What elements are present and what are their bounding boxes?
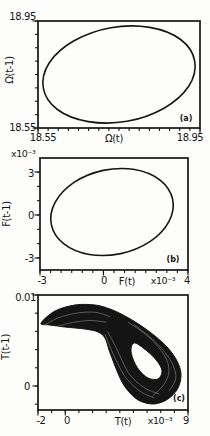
y-scale-label: x10⁻³: [11, 148, 36, 159]
chaotic-attractor-band: [41, 304, 181, 404]
y-tick-label: 3: [28, 168, 34, 179]
y-axis-title: T(t-1): [0, 334, 11, 361]
x-tick-label: 18.55: [30, 132, 57, 143]
panel-letter-a: (a): [180, 114, 193, 123]
x-tick-label: 0: [64, 415, 70, 426]
x-tick-label: 4: [184, 275, 190, 286]
panel-b: x10⁻³ 3 0 -3 F(t-1) -3 0 F(t) x10⁻³ 4 (b…: [1, 148, 190, 287]
panel-c: 0.01 0 T(t-1) -2 0 T(t) x10⁻³ 9 (c): [0, 292, 189, 427]
x-tick-label: 9: [183, 415, 189, 426]
x-axis-title: T(t): [114, 416, 132, 427]
limit-cycle-curve-b: [51, 169, 173, 256]
x-tick-label: -3: [37, 275, 46, 286]
y-tick-label: 0.01: [15, 292, 36, 303]
plot-frame-b: [40, 158, 188, 270]
x-tick-label: 0: [101, 275, 107, 286]
panel-a: 18.95 18.55 Ω(t-1) 18.55 Ω(t) 18.95 (a): [4, 11, 203, 144]
x-tick-label: -2: [36, 415, 45, 426]
x-axis-title: Ω(t): [105, 133, 124, 144]
panel-letter-b: (b): [166, 255, 179, 264]
axis-ticks-a: [33, 21, 201, 134]
x-tick-label: 18.95: [177, 132, 204, 143]
phase-loop: [43, 26, 195, 123]
scientific-figure: 18.95 18.55 Ω(t-1) 18.55 Ω(t) 18.95 (a) …: [0, 0, 210, 436]
x-axis-title: F(t): [119, 276, 136, 287]
x-scale-label: x10⁻³: [148, 415, 173, 426]
phase-loop: [51, 169, 173, 256]
y-tick-label: 0: [28, 210, 34, 221]
y-tick-label: 0: [24, 381, 30, 392]
y-tick-label: -3: [25, 253, 34, 264]
y-axis-title: Ω(t-1): [4, 56, 15, 84]
panel-letter-c: (c): [173, 394, 185, 403]
x-scale-label: x10⁻³: [151, 275, 176, 286]
y-axis-title: F(t-1): [1, 201, 12, 227]
figure-svg: 18.95 18.55 Ω(t-1) 18.55 Ω(t) 18.95 (a) …: [0, 0, 210, 436]
y-tick-label: 18.95: [9, 11, 36, 22]
limit-cycle-curve-a: [43, 26, 195, 123]
axis-ticks-b: [35, 172, 189, 275]
